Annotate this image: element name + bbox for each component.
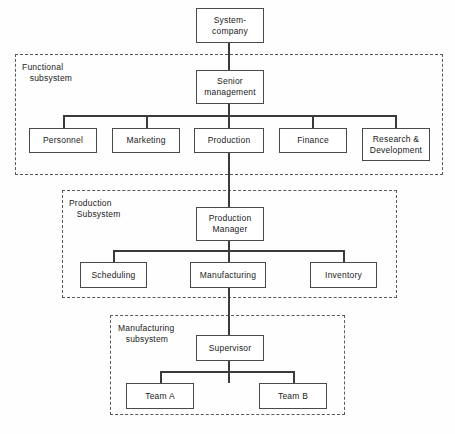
- node-label-team-b: Team B: [276, 391, 310, 402]
- node-production-manager[interactable]: Production Manager: [196, 207, 264, 241]
- node-scheduling[interactable]: Scheduling: [80, 262, 147, 288]
- node-label-senior-management: Senior management: [202, 76, 258, 98]
- connector-bus-to-finance: [312, 115, 314, 128]
- node-team-b[interactable]: Team B: [259, 383, 327, 409]
- node-label-system-company: System- company: [210, 15, 250, 37]
- node-senior-management[interactable]: Senior management: [196, 70, 264, 104]
- node-label-production: Production: [206, 135, 253, 146]
- connector-functional-bus: [63, 115, 397, 117]
- node-label-manufacturing: Manufacturing: [198, 270, 258, 281]
- node-system-company[interactable]: System- company: [196, 8, 264, 43]
- connector-bus-to-team-b: [293, 371, 295, 383]
- group-label-production-subsystem: Production Subsystem: [69, 198, 121, 220]
- node-marketing[interactable]: Marketing: [112, 128, 180, 153]
- connector-team-bus: [160, 371, 294, 373]
- connector-bus-to-personnel: [63, 115, 65, 128]
- node-team-a[interactable]: Team A: [126, 383, 194, 409]
- node-label-supervisor: Supervisor: [207, 343, 254, 354]
- node-supervisor[interactable]: Supervisor: [196, 335, 264, 361]
- group-label-functional-subsystem: Functional subsystem: [22, 62, 72, 84]
- node-finance[interactable]: Finance: [279, 128, 347, 153]
- node-inventory[interactable]: Inventory: [310, 262, 377, 288]
- node-personnel[interactable]: Personnel: [29, 128, 97, 153]
- connector-manufacturing-to-supervisor: [228, 287, 230, 335]
- connector-bus-to-team-a: [160, 371, 162, 383]
- node-label-research-development: Research & Development: [368, 134, 424, 156]
- node-manufacturing[interactable]: Manufacturing: [190, 262, 266, 288]
- node-label-team-a: Team A: [143, 391, 177, 402]
- node-label-marketing: Marketing: [124, 135, 167, 146]
- node-label-scheduling: Scheduling: [89, 270, 137, 281]
- group-label-manufacturing-subsystem: Manufacturing subsystem: [118, 323, 174, 345]
- connector-bus-to-production: [228, 115, 230, 128]
- node-research-development[interactable]: Research & Development: [362, 128, 430, 161]
- node-label-inventory: Inventory: [323, 270, 364, 281]
- connector-system-to-senior: [228, 42, 230, 71]
- connector-bus-to-inventory: [343, 250, 345, 262]
- connector-bus-to-scheduling: [113, 250, 115, 262]
- connector-bus-to-research-development: [395, 115, 397, 128]
- org-chart-diagram: Functional subsystem Production Subsyste…: [0, 0, 455, 434]
- node-label-production-manager: Production Manager: [207, 213, 254, 235]
- connector-production-to-production-manager: [228, 152, 230, 207]
- node-production[interactable]: Production: [194, 128, 264, 153]
- node-label-personnel: Personnel: [41, 135, 85, 146]
- connector-bus-to-marketing: [146, 115, 148, 128]
- connector-bus-to-manufacturing: [228, 250, 230, 262]
- node-label-finance: Finance: [295, 135, 331, 146]
